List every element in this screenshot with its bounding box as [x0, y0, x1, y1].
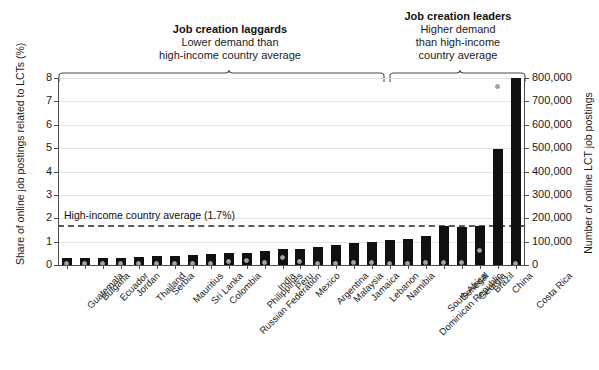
y-axis-left-tick-label: 7	[22, 94, 52, 106]
x-axis-tick	[103, 265, 104, 269]
x-axis-tick	[444, 265, 445, 269]
y-axis-right-tick	[525, 78, 529, 79]
y-axis-right-tick	[525, 101, 529, 102]
y-axis-left-tick-label: 0	[22, 258, 52, 270]
y-axis-right-tick-label: 700,000	[532, 94, 572, 106]
y-axis-left-tick-label: 4	[22, 165, 52, 177]
y-axis-right-tick-label: 0	[532, 258, 538, 270]
gridline	[58, 172, 525, 173]
bar	[493, 149, 503, 265]
reference-line-label: High-income country average (1.7%)	[64, 209, 235, 221]
x-axis-tick	[318, 265, 319, 269]
x-axis-tick	[67, 265, 68, 269]
x-axis-tick	[426, 265, 427, 269]
x-axis-tick	[211, 265, 212, 269]
scatter-point	[441, 260, 446, 265]
y-axis-left-tick-label: 3	[22, 188, 52, 200]
x-axis-tick	[480, 265, 481, 269]
x-axis-tick	[283, 265, 284, 269]
annotation-laggards: Job creation laggards Lower demand than …	[110, 23, 350, 62]
y-axis-right-tick	[525, 125, 529, 126]
y-axis-right-tick	[525, 218, 529, 219]
annotation-leaders: Job creation leaders Higher demand than …	[395, 10, 521, 62]
x-axis-tick	[139, 265, 140, 269]
annotation-leaders-line1: Higher demand	[395, 23, 521, 36]
y-axis-right-tick	[525, 242, 529, 243]
y-axis-right-tick	[525, 195, 529, 196]
x-axis-tick	[85, 265, 86, 269]
annotation-leaders-line3: country average	[395, 49, 521, 62]
y-axis-left-tick	[54, 148, 58, 149]
gridline	[58, 125, 525, 126]
x-axis-tick	[229, 265, 230, 269]
x-axis-tick	[354, 265, 355, 269]
annotation-leaders-title: Job creation leaders	[395, 10, 521, 23]
scatter-point	[477, 248, 482, 253]
gridline	[58, 148, 525, 149]
gridline	[58, 242, 525, 243]
annotation-laggards-title: Job creation laggards	[110, 23, 350, 36]
chart-figure: Job creation laggards Lower demand than …	[0, 0, 599, 370]
bar	[475, 226, 485, 265]
reference-line-high-income-average	[58, 225, 525, 227]
x-axis-line	[58, 265, 525, 266]
x-axis-tick	[175, 265, 176, 269]
y-axis-right-tick	[525, 265, 529, 266]
y-axis-left-tick-label: 1	[22, 235, 52, 247]
x-axis-category-label: Serbia	[169, 270, 196, 297]
y-axis-right-tick-label: 800,000	[532, 71, 572, 83]
x-axis-tick	[408, 265, 409, 269]
y-axis-right-tick	[525, 172, 529, 173]
scatter-point	[495, 84, 500, 89]
annotation-laggards-line2: high-income country average	[110, 49, 350, 62]
gridline	[58, 78, 525, 79]
gridline	[58, 195, 525, 196]
y-axis-left-line	[58, 78, 59, 266]
y-axis-right-tick-label: 400,000	[532, 165, 572, 177]
y-axis-left-tick	[54, 242, 58, 243]
y-axis-left-tick	[54, 218, 58, 219]
y-axis-left-tick-label: 8	[22, 71, 52, 83]
y-axis-left-tick-label: 2	[22, 211, 52, 223]
x-axis-tick	[516, 265, 517, 269]
y-axis-left-tick	[54, 172, 58, 173]
x-axis-tick	[336, 265, 337, 269]
x-axis-tick	[498, 265, 499, 269]
y-axis-right-tick-label: 200,000	[532, 211, 572, 223]
x-axis-category-label: China	[509, 270, 534, 295]
x-axis-tick	[300, 265, 301, 269]
x-axis-tick	[121, 265, 122, 269]
x-axis-tick	[193, 265, 194, 269]
gridline	[58, 101, 525, 102]
x-axis-category-label: Costa Rica	[534, 270, 575, 311]
y-axis-right-tick-label: 600,000	[532, 118, 572, 130]
y-axis-right-tick	[525, 148, 529, 149]
scatter-point	[244, 258, 249, 263]
y-axis-left-tick	[54, 195, 58, 196]
x-axis-tick	[462, 265, 463, 269]
y-axis-left-tick	[54, 265, 58, 266]
y-axis-left-tick	[54, 101, 58, 102]
y-axis-left-tick	[54, 125, 58, 126]
plot-area	[58, 78, 525, 265]
x-axis-tick	[157, 265, 158, 269]
annotation-laggards-line1: Lower demand than	[110, 36, 350, 49]
annotation-leaders-line2: than high-income	[395, 36, 521, 49]
y-axis-right-tick-label: 100,000	[532, 235, 572, 247]
x-axis-tick	[265, 265, 266, 269]
y-axis-right-tick-label: 500,000	[532, 141, 572, 153]
x-axis-tick	[372, 265, 373, 269]
y-axis-right-tick-label: 300,000	[532, 188, 572, 200]
bar	[511, 78, 521, 265]
y-axis-right-title: Number of online LCT job postings	[582, 78, 594, 268]
y-axis-left-tick	[54, 78, 58, 79]
x-axis-tick	[247, 265, 248, 269]
x-axis-tick	[390, 265, 391, 269]
y-axis-left-tick-label: 5	[22, 141, 52, 153]
y-axis-left-tick-label: 6	[22, 118, 52, 130]
